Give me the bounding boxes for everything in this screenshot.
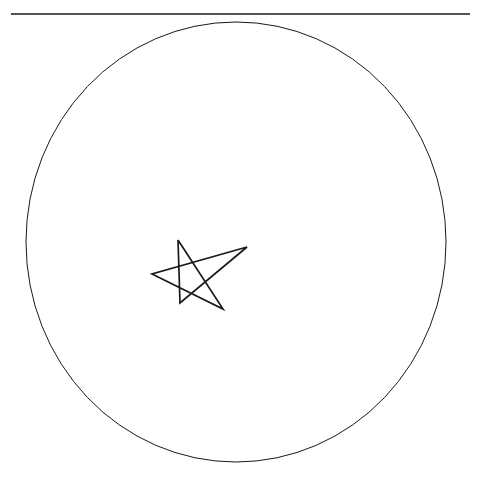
canvas-background [0, 0, 477, 478]
turtle-canvas [0, 0, 477, 478]
drawing-svg [0, 0, 477, 478]
